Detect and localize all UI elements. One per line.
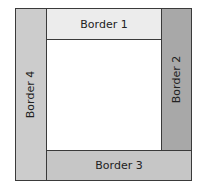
border-1-top: Border 1 [46,8,162,40]
border-3-bottom: Border 3 [46,150,192,181]
border-4-label: Border 4 [25,71,38,118]
border-2-right: Border 2 [161,8,192,151]
center-panel [47,40,161,150]
border-1-label: Border 1 [80,18,127,31]
border-3-label: Border 3 [95,159,142,172]
border-4-left: Border 4 [15,8,47,181]
border-2-label: Border 2 [170,56,183,103]
